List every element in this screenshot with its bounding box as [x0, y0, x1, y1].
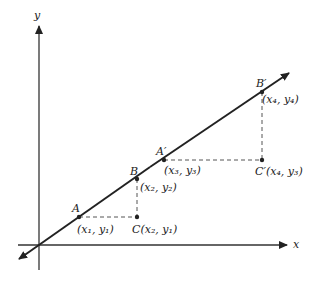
label-B-prime: B′: [256, 78, 267, 89]
point-C-prime: [260, 158, 264, 162]
coord-A-prime: (x₃, y₃): [164, 165, 201, 176]
coord-A: (x₁, y₁): [77, 224, 114, 235]
coord-B-prime: (x₄, y₄): [262, 94, 299, 105]
diagram-canvas: [0, 0, 313, 284]
label-A: A: [72, 203, 80, 214]
label-B: B: [130, 166, 138, 177]
label-A-prime: A′: [156, 146, 166, 157]
slope-diagram: y x A (x₁, y₁) B (x₂, y₂) C(x₂, y₁) A′ (…: [0, 0, 313, 284]
coord-C-prime: C′(x₄, y₃): [255, 166, 303, 177]
point-A: [77, 215, 81, 219]
y-axis-label: y: [34, 10, 40, 21]
coord-B: (x₂, y₂): [140, 182, 177, 193]
x-axis-label: x: [293, 239, 299, 250]
point-C: [135, 215, 139, 219]
sloped-line: [150, 73, 289, 167]
coord-C: C(x₂, y₁): [132, 224, 177, 235]
point-A-prime: [162, 158, 166, 162]
